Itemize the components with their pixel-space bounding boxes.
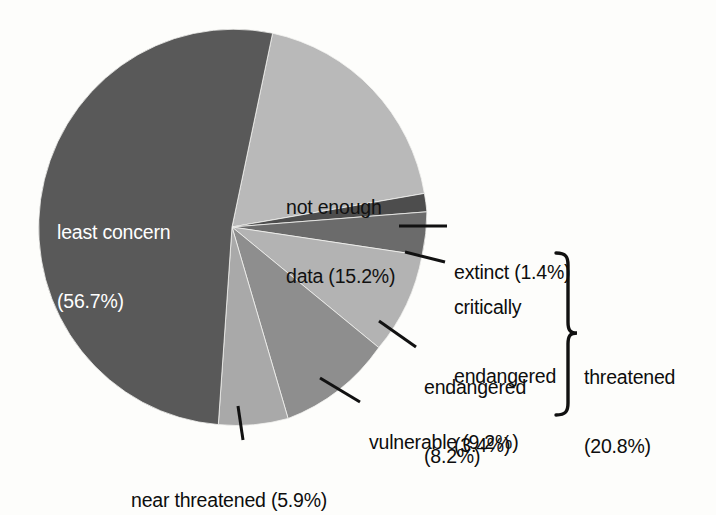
label-vulnerable-text: vulnerable (9.2%) (369, 431, 518, 454)
label-not-enough-data-line2: data (15.2%) (286, 265, 395, 288)
label-not-enough-data-line1: not enough (286, 196, 395, 219)
label-near-threatened-text: near threatened (5.9%) (131, 489, 327, 512)
label-least-concern-line1: least concern (57, 221, 170, 244)
label-critically-endangered-line1: critically (454, 296, 556, 319)
label-threatened-group: threatened (20.8%) (584, 320, 675, 504)
label-threatened-line2: (20.8%) (584, 435, 675, 458)
label-threatened-line1: threatened (584, 366, 675, 389)
label-least-concern: least concern (56.7%) (57, 175, 170, 359)
label-not-enough-data: not enough data (15.2%) (286, 150, 395, 334)
label-least-concern-line2: (56.7%) (57, 290, 170, 313)
label-vulnerable: vulnerable (9.2%) (369, 385, 518, 500)
label-near-threatened: near threatened (5.9%) (131, 443, 327, 515)
